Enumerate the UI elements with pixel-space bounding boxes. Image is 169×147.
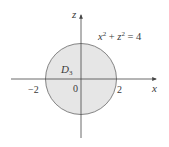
- x-axis-label: x: [151, 82, 157, 94]
- tick-origin: 0: [73, 83, 78, 94]
- z-axis-label: z: [71, 8, 77, 20]
- diagram-canvas: z x x2 + z2 = 4 D3 −2 0 2: [0, 0, 169, 147]
- tick-2: 2: [117, 84, 122, 95]
- equation-label: x2 + z2 = 4: [97, 30, 142, 42]
- tick-neg2: −2: [28, 84, 39, 95]
